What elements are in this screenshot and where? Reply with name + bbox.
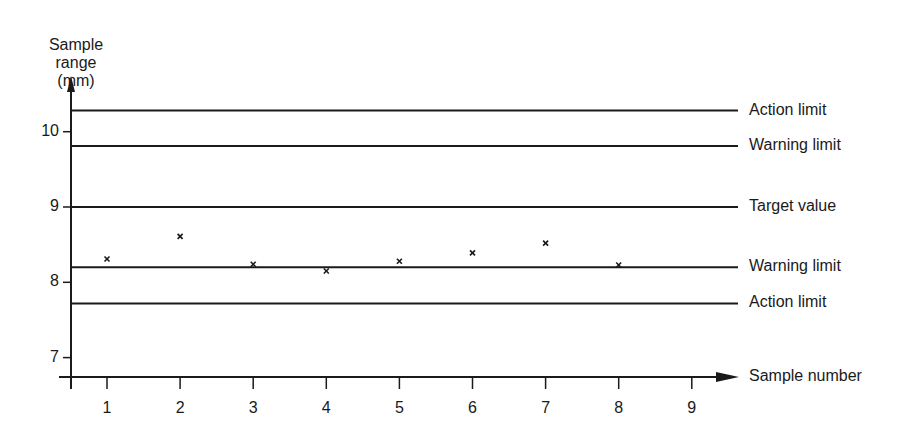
- x-tick-label: 7: [536, 399, 556, 417]
- y-axis-label: Sample range (mm): [36, 36, 116, 90]
- data-point-marker-icon: [470, 250, 475, 255]
- reference-line-label: Warning limit: [749, 257, 841, 275]
- x-axis-label: Sample number: [749, 367, 862, 385]
- data-point-marker-icon: [178, 234, 183, 239]
- reference-line-label: Target value: [749, 197, 836, 215]
- reference-line-label: Warning limit: [749, 136, 841, 154]
- x-tick-label: 5: [389, 399, 409, 417]
- x-tick-label: 9: [682, 399, 702, 417]
- y-tick-label: 8: [29, 272, 59, 290]
- y-tick-label: 9: [29, 197, 59, 215]
- data-point-marker-icon: [543, 241, 548, 246]
- data-point-marker-icon: [105, 256, 110, 261]
- y-tick-label: 10: [29, 122, 59, 140]
- x-tick-label: 4: [316, 399, 336, 417]
- x-tick-label: 1: [97, 399, 117, 417]
- x-tick-label: 3: [243, 399, 263, 417]
- x-tick-label: 6: [463, 399, 483, 417]
- x-tick-label: 8: [609, 399, 629, 417]
- reference-line-label: Action limit: [749, 101, 826, 119]
- y-axis-label-line1: Sample: [36, 36, 116, 54]
- data-point-marker-icon: [324, 269, 329, 274]
- data-point-marker-icon: [397, 259, 402, 264]
- reference-line-label: Action limit: [749, 293, 826, 311]
- x-axis-arrow-icon: [716, 372, 739, 382]
- y-tick-label: 7: [29, 348, 59, 366]
- x-tick-label: 2: [170, 399, 190, 417]
- data-point-marker-icon: [251, 262, 256, 267]
- y-axis-label-line2: range (mm): [36, 54, 116, 90]
